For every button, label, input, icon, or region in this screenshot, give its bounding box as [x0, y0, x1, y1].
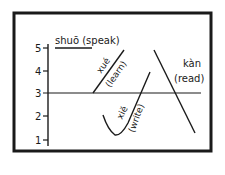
kan-gloss: (read) [174, 73, 204, 84]
kan-pinyin: kàn [183, 58, 201, 69]
tick-label-3: 3 [35, 88, 41, 99]
tick-label-2: 2 [35, 111, 41, 122]
tick-label-1: 1 [35, 135, 41, 146]
tick-label-4: 4 [35, 66, 41, 77]
tick-label-5: 5 [35, 43, 41, 54]
axis-ticks [43, 48, 48, 140]
xue-pinyin: xué [94, 55, 112, 75]
xie-pinyin: xiě [115, 104, 130, 121]
shuo-label: shuō (speak) [55, 35, 120, 46]
tone-diagram: 5 4 3 2 1 shuō (speak) xué (learn) xiě (… [0, 0, 225, 175]
